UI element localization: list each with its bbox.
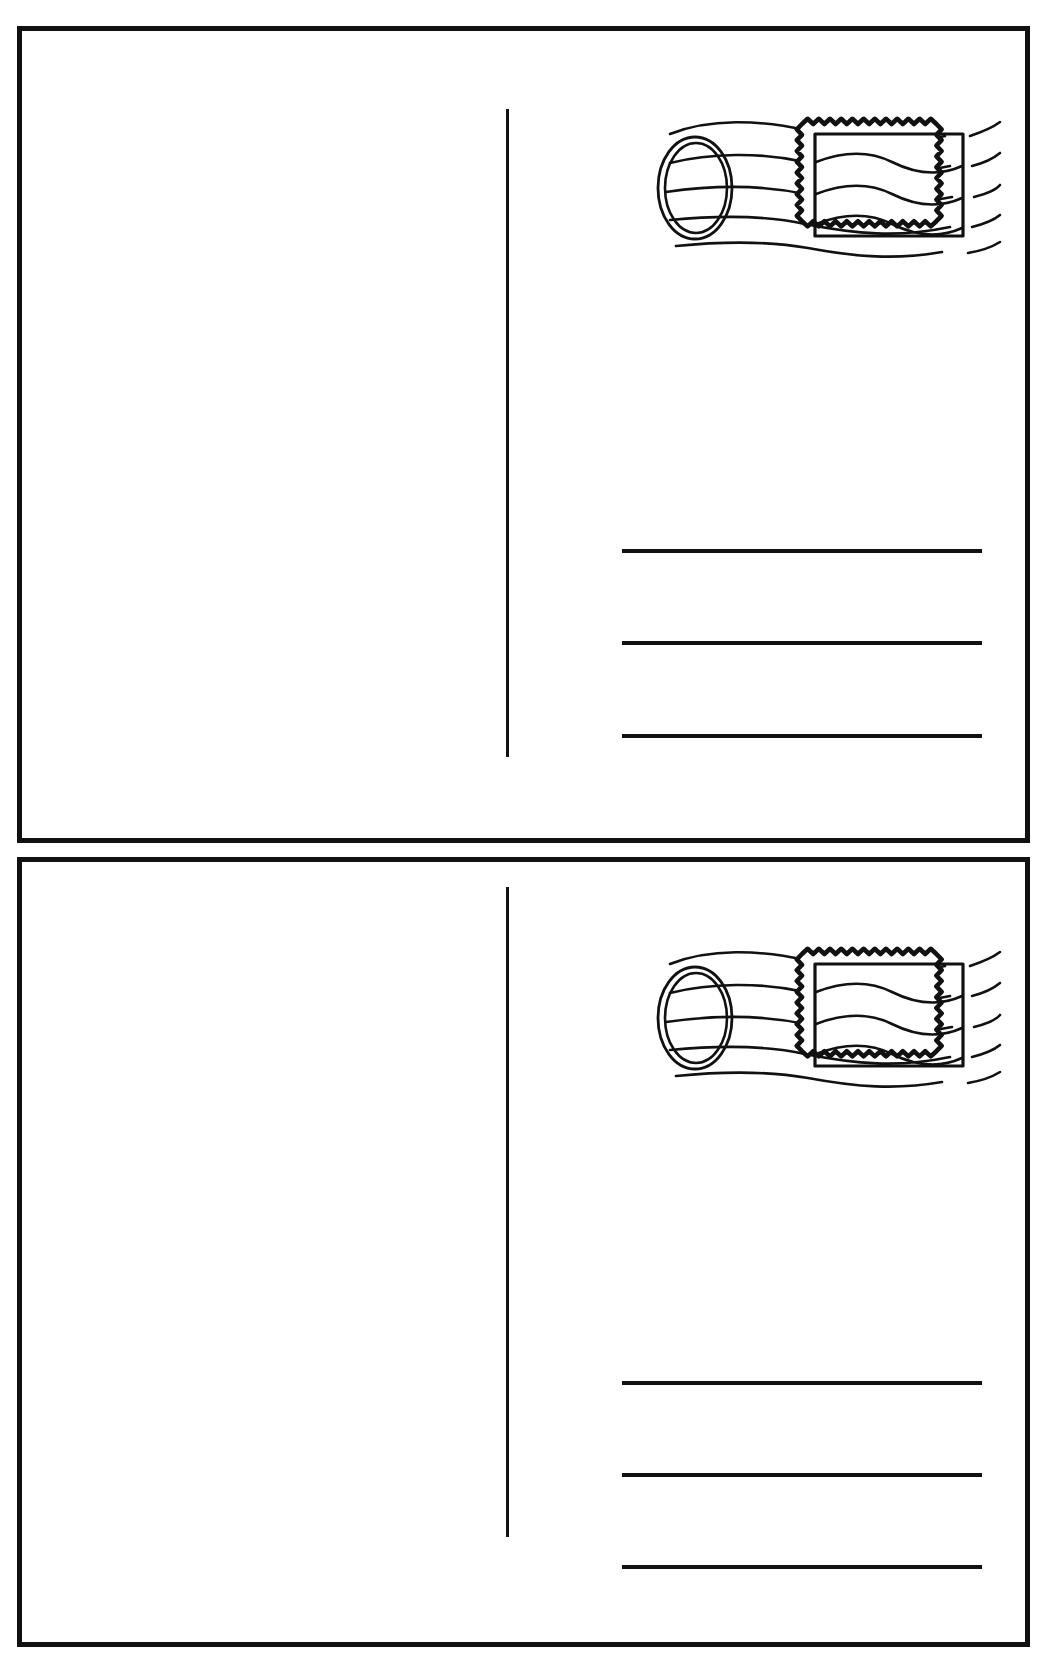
worksheet-sheet	[0, 0, 1043, 1657]
message-area[interactable]	[36, 45, 498, 824]
address-line[interactable]	[622, 1473, 982, 1477]
address-area[interactable]	[515, 872, 1015, 1632]
address-area[interactable]	[515, 41, 1015, 828]
message-area[interactable]	[36, 876, 498, 1628]
center-divider-line	[506, 887, 509, 1537]
center-divider-line	[506, 109, 509, 757]
address-line[interactable]	[622, 1565, 982, 1569]
address-line[interactable]	[622, 641, 982, 645]
postcard-card[interactable]	[17, 857, 1030, 1647]
address-line[interactable]	[622, 734, 982, 738]
address-line[interactable]	[622, 1381, 982, 1385]
postcard-card[interactable]	[17, 26, 1030, 843]
address-line[interactable]	[622, 549, 982, 553]
